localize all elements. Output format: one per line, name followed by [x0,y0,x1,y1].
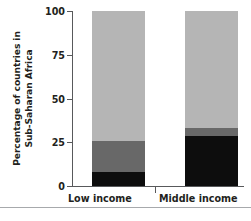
bottom-divider-rule [0,207,251,208]
x-tick-mark-separator [155,187,156,193]
y-axis-label-text: Percentage of countries in Sub-Saharan A… [11,31,34,166]
bar-low-income [92,11,145,186]
y-axis-label-line-1: Percentage of countries in [11,31,22,166]
y-tick-mark-0 [67,186,72,187]
bar-segment-bottom [185,136,238,186]
y-axis-label-line-2: Sub-Saharan Africa [22,31,34,166]
y-tick-label-50: 50 [52,93,65,104]
y-tick-mark-25 [67,142,72,143]
y-tick-label-75: 75 [52,49,65,60]
bar-segment-top [92,11,145,141]
bar-middle-income [185,11,238,186]
x-tick-label-low-income: Low income [68,193,128,204]
bar-segment-bottom [92,172,145,186]
y-tick-label-100: 100 [45,6,65,17]
bar-segment-middle [185,128,238,136]
bar-segment-middle [92,141,145,173]
y-tick-label-0: 0 [58,181,65,192]
y-tick-mark-75 [67,55,72,56]
x-tick-label-middle-income: Middle income [159,193,235,204]
stacked-bar-chart: Percentage of countries in Sub-Saharan A… [0,0,251,221]
plot-area: 100 75 50 25 0 [72,11,240,186]
y-axis-label: Percentage of countries in Sub-Saharan A… [0,0,44,196]
y-tick-mark-100 [67,11,72,12]
y-tick-label-25: 25 [52,137,65,148]
x-axis-line [72,186,244,187]
bar-segment-top [185,11,238,128]
y-tick-mark-50 [67,99,72,100]
